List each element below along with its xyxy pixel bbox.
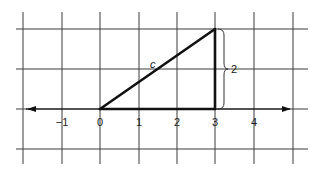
tick-label: 2 (174, 116, 180, 128)
vertical-leg-label: 2 (231, 63, 237, 75)
hypotenuse-label: c (150, 58, 156, 70)
tick-label: 1 (136, 116, 142, 128)
vertical-grid-lines (23, 12, 293, 164)
left-arrow-icon (27, 106, 36, 112)
tick-label: 0 (97, 116, 103, 128)
tick-label: −1 (56, 116, 69, 128)
tick-label: 4 (251, 116, 257, 128)
right-arrow-icon (282, 106, 291, 112)
tick-label: 3 (212, 116, 218, 128)
coordinate-grid-diagram: −1 0 1 2 3 4 c 2 (0, 0, 326, 174)
horizontal-grid-lines (16, 29, 308, 149)
x-tick-labels: −1 0 1 2 3 4 (56, 116, 257, 128)
